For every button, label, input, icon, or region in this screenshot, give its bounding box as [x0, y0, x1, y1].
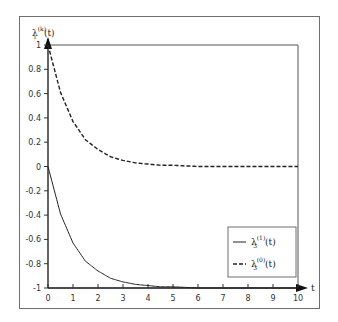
y-tick-label: 0.6 [28, 90, 41, 99]
chart-canvas: 01234567891010.80.60.40.20-0.2-0.4-0.6-0… [0, 0, 338, 322]
y-axis-title: λ(k)i(t) [32, 25, 55, 40]
x-tick-label: 4 [145, 294, 150, 303]
y-tick-label: 1 [36, 41, 41, 50]
series-lambda3-0-dashed [48, 45, 298, 167]
y-tick-label: -0.4 [25, 211, 41, 220]
x-tick-label: 3 [120, 294, 125, 303]
y-tick-label: 0.4 [28, 114, 41, 123]
y-tick-label: -0.6 [25, 235, 41, 244]
y-tick-label: 0.2 [28, 138, 41, 147]
y-tick-label: 0.8 [28, 65, 41, 74]
x-tick-label: 9 [270, 294, 275, 303]
x-axis-title: t [311, 283, 315, 293]
x-tick-label: 7 [220, 294, 225, 303]
x-tick-label: 6 [195, 294, 200, 303]
x-tick-label: 2 [95, 294, 100, 303]
x-tick-label: 5 [170, 294, 175, 303]
x-tick-label: 1 [70, 294, 75, 303]
x-tick-label: 10 [293, 294, 303, 303]
y-tick-label: -0.8 [25, 260, 41, 269]
x-tick-label: 0 [45, 294, 50, 303]
y-tick-label: -1 [33, 284, 41, 293]
y-tick-label: 0 [36, 163, 41, 172]
x-tick-label: 8 [245, 294, 250, 303]
y-tick-label: -0.2 [25, 187, 41, 196]
legend: λ(1)3(t) λ(0)3(t) [228, 227, 296, 277]
